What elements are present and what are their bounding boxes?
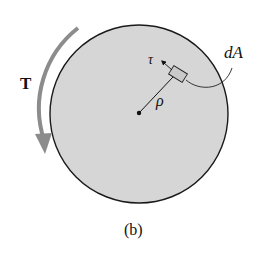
figure-caption: (b) xyxy=(124,221,143,239)
area-label: dA xyxy=(224,43,244,62)
torque-label: T xyxy=(20,74,32,93)
shaft-cross-section-diagram: T τ ρ dA (b) xyxy=(0,0,266,257)
radius-label: ρ xyxy=(155,92,164,110)
center-point xyxy=(137,111,141,115)
